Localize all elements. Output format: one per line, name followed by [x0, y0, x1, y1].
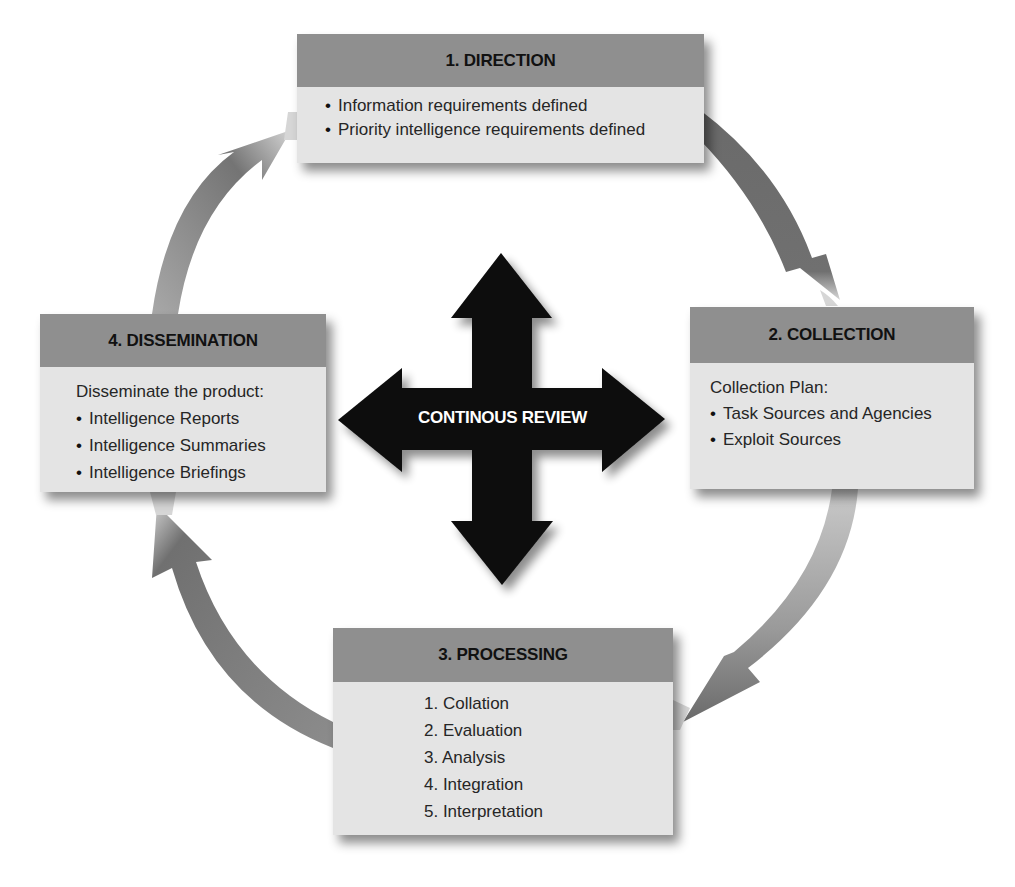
stage-collection-intro: Collection Plan: [710, 375, 974, 401]
stage-processing-box: 3. PROCESSING 1. Collation 2. Evaluation… [333, 628, 673, 835]
list-item: Priority intelligence requirements defin… [325, 118, 704, 142]
stage-direction-list: Information requirements defined Priorit… [325, 94, 704, 142]
stage-dissemination-intro: Disseminate the product: [76, 378, 326, 405]
list-item: Exploit Sources [710, 427, 974, 453]
stage-processing-title: 3. PROCESSING [333, 628, 673, 682]
cycle-arrow-processing-to-dissemination [150, 492, 333, 748]
stage-collection-box: 2. COLLECTION Collection Plan: Task Sour… [690, 307, 974, 489]
list-item: 2. Evaluation [424, 717, 673, 744]
list-item: 3. Analysis [424, 744, 673, 771]
stage-dissemination-list: Intelligence Reports Intelligence Summar… [76, 405, 326, 486]
stage-direction-box: 1. DIRECTION Information requirements de… [297, 34, 704, 163]
cycle-arrow-direction-to-collection [700, 110, 840, 306]
list-item: 4. Integration [424, 771, 673, 798]
continuous-review-label: CONTINOUS REVIEW [380, 408, 625, 428]
stage-dissemination-box: 4. DISSEMINATION Disseminate the product… [40, 314, 326, 492]
list-item: 5. Interpretation [424, 798, 673, 825]
list-item: Information requirements defined [325, 94, 704, 118]
cycle-arrow-collection-to-processing [673, 489, 858, 730]
list-item: Intelligence Reports [76, 405, 326, 432]
stage-dissemination-title: 4. DISSEMINATION [40, 314, 326, 367]
list-item: Task Sources and Agencies [710, 401, 974, 427]
list-item: Intelligence Summaries [76, 432, 326, 459]
list-item: 1. Collation [424, 690, 673, 717]
stage-processing-list: 1. Collation 2. Evaluation 3. Analysis 4… [424, 690, 673, 825]
list-item: Intelligence Briefings [76, 459, 326, 486]
stage-direction-title: 1. DIRECTION [297, 34, 704, 87]
stage-collection-list: Task Sources and Agencies Exploit Source… [710, 401, 974, 453]
cycle-arrow-dissemination-to-direction [152, 112, 297, 314]
stage-collection-title: 2. COLLECTION [690, 307, 974, 363]
